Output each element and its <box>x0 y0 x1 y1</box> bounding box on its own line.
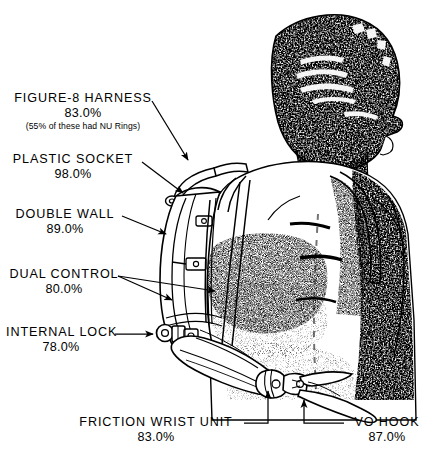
callout-double-wall-title: DOUBLE WALL <box>10 208 120 221</box>
callout-plastic-socket: PLASTIC SOCKET 98.0% <box>8 153 138 181</box>
callout-internal-lock-percent: 78.0% <box>6 341 116 354</box>
callout-dual-control-title: DUAL CONTROL <box>8 268 120 281</box>
callout-plastic-socket-title: PLASTIC SOCKET <box>8 153 138 166</box>
callout-double-wall-percent: 89.0% <box>10 223 120 236</box>
callout-plastic-socket-percent: 98.0% <box>8 168 138 181</box>
callout-dual-control: DUAL CONTROL 80.0% <box>8 268 120 296</box>
leader-vo-hook <box>304 400 344 423</box>
leader-friction-wrist-unit <box>244 391 268 423</box>
callout-friction-wrist-unit: FRICTION WRIST UNIT 83.0% <box>66 416 246 444</box>
callout-vo-hook-title: VO HOOK <box>346 416 428 429</box>
callout-figure-8-harness-title: FIGURE-8 HARNESS <box>10 92 156 105</box>
prosthesis-diagram: FIGURE-8 HARNESS 83.0% (55% of these had… <box>0 0 433 462</box>
callout-figure-8-harness-note: (55% of these had NU Rings) <box>10 122 156 131</box>
callout-friction-wrist-unit-percent: 83.0% <box>66 431 246 444</box>
callout-figure-8-harness-percent: 83.0% <box>10 107 156 120</box>
callout-internal-lock: INTERNAL LOCK 78.0% <box>6 326 116 354</box>
leader-plastic-socket <box>142 162 183 193</box>
callout-internal-lock-title: INTERNAL LOCK <box>6 326 116 339</box>
callout-figure-8-harness: FIGURE-8 HARNESS 83.0% (55% of these had… <box>10 92 156 131</box>
callout-friction-wrist-unit-title: FRICTION WRIST UNIT <box>66 416 246 429</box>
callout-vo-hook: VO HOOK 87.0% <box>346 416 428 444</box>
leader-double-wall <box>122 216 166 234</box>
callout-double-wall: DOUBLE WALL 89.0% <box>10 208 120 236</box>
callout-dual-control-percent: 80.0% <box>8 283 120 296</box>
leader-figure-8-harness <box>152 101 188 160</box>
callout-vo-hook-percent: 87.0% <box>346 431 428 444</box>
leader-dual-control-b <box>118 276 215 291</box>
